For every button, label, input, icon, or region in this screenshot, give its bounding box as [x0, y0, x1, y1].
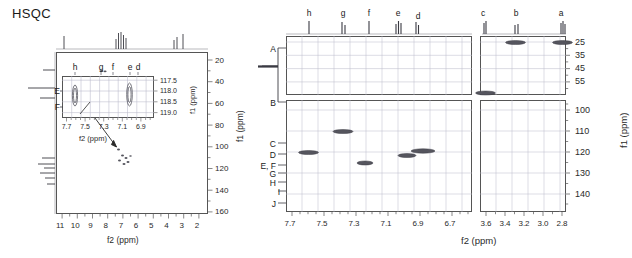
inset-xtick-7p5: 7.5 — [77, 123, 94, 130]
right-row-label-A: A — [258, 44, 276, 54]
left-top-1d-trace — [56, 30, 208, 50]
left-side-1d-trace — [26, 52, 56, 214]
right-xtick-3p6: 3.6 — [478, 219, 494, 228]
right-ytick-55: 55 — [575, 76, 585, 86]
right-row-label-D: D — [258, 150, 276, 160]
peak-c — [476, 91, 496, 95]
right-xaxis-label: f2 (ppm) — [461, 235, 496, 246]
left-xtick-11: 11 — [52, 221, 68, 230]
left-panel-full-spectrum: 11 10 9 8 7 6 5 4 3 2 f2 (ppm) 20 40 60 … — [0, 24, 240, 258]
right-xaxis-ticks — [286, 212, 566, 218]
left-xtick-4: 4 — [159, 221, 175, 230]
left-ytick-120: 120 — [215, 164, 228, 173]
right-row-label-C: C — [258, 139, 276, 149]
left-xaxis-ticks — [56, 214, 208, 220]
peak-EF-1 — [299, 151, 319, 155]
inset-xtick-6p9: 6.9 — [132, 123, 149, 130]
right-row-label-B: B — [258, 98, 276, 108]
left-xtick-2: 2 — [189, 221, 205, 230]
right-plot-area — [286, 36, 566, 212]
inset-panel-aromatic: h g f e d — [62, 62, 192, 134]
left-ytick-140: 140 — [215, 186, 228, 195]
right-xtick-6p7: 6.7 — [442, 219, 458, 228]
figure-title: HSQC — [12, 6, 51, 21]
right-xtick-3p0: 3.0 — [535, 219, 551, 228]
left-ytick-20: 20 — [215, 56, 224, 65]
left-xtick-5: 5 — [143, 221, 159, 230]
inset-ytick-118p0: 118.0 — [160, 87, 177, 94]
right-row-leader-lines — [276, 36, 288, 212]
right-ytick-110: 110 — [575, 126, 589, 136]
right-xtick-6p9: 6.9 — [410, 219, 426, 228]
right-yaxis-ticks — [566, 36, 572, 212]
inset-row-label-E: E — [48, 86, 60, 96]
left-ytick-60: 60 — [215, 99, 224, 108]
inset-xtick-7p7: 7.7 — [58, 123, 75, 130]
right-top-1d-trace — [286, 17, 566, 35]
right-xtick-3p2: 3.2 — [516, 219, 532, 228]
right-xtick-2p8: 2.8 — [554, 219, 570, 228]
left-xtick-3: 3 — [174, 221, 190, 230]
left-xtick-7: 7 — [113, 221, 129, 230]
right-xtick-7p1: 7.1 — [378, 219, 394, 228]
left-ytick-80: 80 — [215, 121, 224, 130]
inset-ytick-117p5: 117.5 — [160, 77, 177, 84]
right-yaxis-label: f1 (ppm) — [618, 113, 629, 148]
inset-yaxis-ticks — [154, 76, 159, 118]
inset-xaxis-label: f2 (ppm) — [79, 134, 107, 143]
right-ytick-140: 140 — [575, 189, 590, 199]
inset-plot-area — [62, 76, 154, 118]
right-panel-expansion: h g f e d c b a — [258, 0, 632, 258]
inset-ytick-118p5: 118.5 — [160, 98, 177, 105]
left-ytick-100: 100 — [215, 142, 228, 151]
left-xtick-6: 6 — [128, 221, 144, 230]
inset-yaxis-label: f1 (ppm) — [188, 86, 197, 114]
left-ytick-160: 160 — [215, 207, 228, 216]
right-xtick-7p5: 7.5 — [314, 219, 330, 228]
inset-ytick-119p0: 119.0 — [160, 109, 177, 116]
left-yaxis-ticks — [208, 52, 214, 214]
inset-xtick-7p1: 7.1 — [114, 123, 131, 130]
right-ytick-130: 130 — [575, 168, 590, 178]
right-plot-grid — [286, 36, 566, 212]
peak-D — [333, 130, 353, 134]
inset-row-label-F: F — [48, 102, 60, 112]
right-xtick-7p7: 7.7 — [282, 219, 298, 228]
right-ytick-35: 35 — [575, 50, 585, 60]
left-xtick-10: 10 — [67, 221, 83, 230]
right-ytick-100: 100 — [575, 105, 590, 115]
peak-b — [506, 41, 526, 45]
right-xtick-7p3: 7.3 — [346, 219, 362, 228]
left-xtick-9: 9 — [83, 221, 99, 230]
right-ytick-120: 120 — [575, 147, 590, 157]
peak-EF-2 — [411, 149, 435, 153]
inset-xtick-7p3: 7.3 — [95, 123, 112, 130]
peak-G — [398, 154, 416, 158]
right-ytick-45: 45 — [575, 63, 585, 73]
figure-root: HSQC — [0, 0, 632, 258]
left-yaxis-label: f1 (ppm) — [235, 110, 245, 142]
right-bracket-thick-mark — [258, 64, 280, 70]
left-xtick-8: 8 — [98, 221, 114, 230]
right-xtick-3p4: 3.4 — [497, 219, 513, 228]
peak-H — [357, 161, 373, 165]
left-xaxis-label: f2 (ppm) — [107, 235, 139, 245]
right-ytick-25: 25 — [575, 37, 585, 47]
inset-row-ticks — [60, 76, 64, 118]
right-row-label-J: J — [258, 199, 276, 209]
left-ytick-40: 40 — [215, 77, 224, 86]
